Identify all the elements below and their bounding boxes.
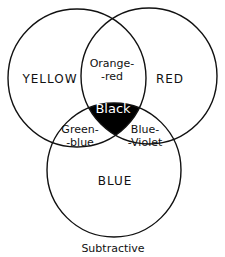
- blue-label: BLUE: [90, 175, 140, 188]
- green-blue-label: Green- -blue: [57, 123, 103, 149]
- yellow-label: YELLOW: [20, 73, 80, 86]
- red-label: RED: [145, 73, 195, 86]
- orange-red-line2: -red: [86, 70, 138, 83]
- orange-red-line1: Orange-: [86, 57, 138, 70]
- venn-diagram: [0, 0, 225, 257]
- green-blue-line1: Green-: [57, 123, 103, 136]
- blue-violet-label: Blue- -Violet: [120, 123, 170, 149]
- black-label: Black: [90, 102, 136, 115]
- blue-violet-line1: Blue-: [120, 123, 170, 136]
- blue-violet-line2: -Violet: [120, 136, 170, 149]
- green-blue-line2: -blue: [57, 136, 103, 149]
- diagram-caption: Subtractive: [70, 242, 156, 255]
- orange-red-label: Orange- -red: [86, 57, 138, 83]
